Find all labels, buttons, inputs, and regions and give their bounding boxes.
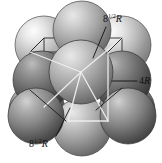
crystal-structure-canvas (0, 0, 162, 163)
label-top-right-variable: R (116, 13, 122, 24)
label-edge-length-right: 4R (139, 76, 150, 86)
label-top-right-exponent: 1/2 (108, 13, 116, 19)
label-bottom-left-variable: R (42, 138, 48, 149)
label-face-diagonal-top-right: 81/2R (103, 13, 122, 24)
label-face-diagonal-bottom-left: 81/2R (29, 138, 48, 149)
fcc-unit-cell-figure: 81/2R 4R 81/2R (0, 0, 162, 163)
label-bottom-left-exponent: 1/2 (34, 138, 42, 144)
label-right-variable: R (144, 75, 150, 86)
